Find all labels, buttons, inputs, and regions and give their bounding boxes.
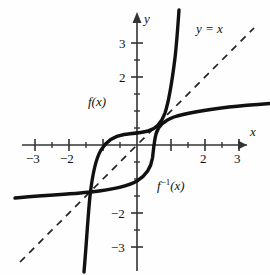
y-tick-label-neg3: −3 — [111, 241, 125, 254]
label-f-of-x: f(x) — [88, 95, 106, 108]
x-tick-label-pos2: 2 — [200, 152, 207, 165]
label-f-inverse-of-x: f−1(x) — [157, 178, 185, 192]
y-axis-name: y — [144, 12, 150, 25]
curve-f-of-x — [84, 10, 179, 272]
label-y-equals-x: y = x — [196, 22, 223, 35]
label-f-inverse-exponent: −1 — [161, 177, 171, 187]
y-tick-label-pos3: 3 — [119, 37, 126, 50]
x-tick-label-pos3: 3 — [234, 152, 241, 165]
function-inverse-graph-figure: −3 −2 2 3 3 2 −2 −3 x y f(x) y = x f−1(x… — [0, 0, 270, 275]
curve-f-inverse-of-x — [15, 103, 270, 198]
y-tick-label-neg2: −2 — [111, 207, 125, 220]
label-f-inverse-argument: (x) — [170, 178, 184, 193]
y-tick-label-pos2: 2 — [119, 71, 126, 84]
x-axis-name: x — [250, 125, 256, 138]
plot-canvas — [0, 0, 270, 275]
x-tick-label-neg2: −2 — [60, 152, 74, 165]
x-tick-label-neg3: −3 — [26, 152, 40, 165]
